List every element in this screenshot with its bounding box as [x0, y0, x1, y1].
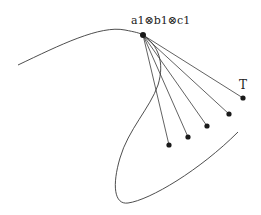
endpoint-t-label: T	[239, 78, 247, 92]
ray-5	[143, 35, 243, 98]
endpoint-node-3	[204, 123, 209, 128]
endpoint-node-t	[240, 95, 245, 100]
diagram-canvas: a1⊗b1⊗c1 T	[0, 0, 261, 215]
trajectory-curve	[18, 29, 238, 203]
diagram-svg: a1⊗b1⊗c1 T	[0, 0, 261, 215]
apex-node	[140, 32, 146, 38]
ray-3	[143, 35, 207, 126]
apex-label: a1⊗b1⊗c1	[131, 14, 190, 27]
endpoint-node-1	[166, 142, 171, 147]
ray-2	[143, 35, 188, 137]
endpoint-node-4	[226, 111, 231, 116]
ray-4	[143, 35, 229, 114]
endpoint-node-2	[185, 134, 190, 139]
ray-1	[143, 35, 169, 145]
